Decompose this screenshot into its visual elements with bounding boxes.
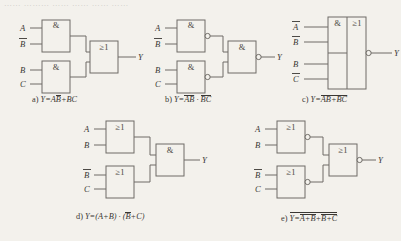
caption-e: e) Y=A+B+B̅+C: [281, 212, 337, 224]
circuit-a: & & ≥1 A B B C Y: [8, 14, 148, 89]
nor-gate-1-inversion-bubble-icon: [305, 134, 310, 139]
input-label-e2: B: [255, 140, 261, 150]
input-label-b2: B: [155, 39, 161, 49]
caption-b-lhs: Y=: [174, 95, 184, 104]
caption-d-lhs: Y=(A+B) · (: [85, 212, 125, 221]
nand-gate-1-symbol: &: [188, 20, 195, 30]
input-label-e4: C: [255, 184, 261, 194]
input-label-b4: C: [155, 79, 161, 89]
caption-e-lhs: Y=: [290, 214, 300, 223]
caption-c-prefix: c): [302, 95, 308, 104]
and-gate-2-symbol: &: [53, 62, 60, 72]
nand-gate-1-inversion-bubble-icon: [205, 33, 210, 38]
nor-gate-2-symbol: ≥1: [287, 167, 296, 177]
or-gate-2-symbol: ≥1: [116, 167, 125, 177]
output-label-d: Y: [202, 155, 208, 165]
caption-c-lhs: Y=: [311, 95, 321, 104]
input-label-c3: B: [293, 59, 299, 69]
input-label-c2: B: [293, 37, 299, 47]
circuit-d: ≥1 ≥1 & A B B C Y: [72, 117, 212, 197]
or-section-output-symbol: ≥1: [353, 18, 362, 28]
caption-a: a) Y=AB+BC: [32, 95, 77, 105]
caption-e-term-2: B̅+C: [321, 214, 337, 224]
logic-circuit-figure-sheet: …… ……… …… …… …… …… & & ≥1 A B: [0, 0, 401, 241]
caption-e-outer-bar-group: Y=A+B+B̅+C: [290, 212, 338, 224]
caption-e-prefix: e): [281, 214, 287, 223]
input-label-c4: C: [293, 74, 299, 84]
or-gate-1-symbol: ≥1: [116, 122, 125, 132]
and-gate-1-symbol: &: [53, 20, 60, 30]
nor-gate-output-symbol: ≥1: [339, 145, 348, 155]
caption-b: b) Y=AB̅ · BC: [165, 95, 211, 105]
caption-a-term-2: +BC: [61, 95, 77, 104]
nand-gate-2-symbol: &: [188, 62, 195, 72]
nor-gate-1-symbol: ≥1: [287, 122, 296, 132]
input-label-b1: A: [154, 23, 161, 33]
or-gate-output-symbol: ≥1: [100, 42, 109, 52]
input-label-a4: C: [20, 79, 26, 89]
caption-d: d) Y=(A+B) · (B+C): [76, 212, 144, 222]
caption-c-term-0: A̅B̅+BC̅: [321, 95, 347, 105]
caption-c: c) Y=A̅B̅+BC̅: [302, 95, 347, 105]
nand-gate-output-symbol: &: [239, 42, 246, 52]
input-label-a3: B: [20, 65, 26, 75]
nand-gate-output-inversion-bubble-icon: [256, 54, 261, 59]
nor-gate-output-inversion-bubble-icon: [357, 157, 362, 162]
circuit-e: ≥1 ≥1 ≥1 A B B C Y: [243, 117, 388, 197]
input-label-c1: A: [292, 22, 299, 32]
circuit-b: & & & A B B C Y: [143, 14, 283, 89]
input-label-d3: B: [84, 170, 90, 180]
input-label-a1: A: [19, 23, 26, 33]
input-label-a2: B: [20, 39, 26, 49]
caption-a-prefix: a): [32, 95, 38, 104]
caption-e-term-0: A+B: [300, 214, 316, 224]
caption-a-lhs: Y=: [41, 95, 51, 104]
caption-b-term-0: AB̅: [184, 95, 194, 105]
input-label-e3: B: [255, 170, 261, 180]
caption-b-prefix: b): [165, 95, 172, 104]
caption-d-prefix: d): [76, 212, 83, 221]
output-label-c: Y: [394, 48, 400, 58]
aoi-output-inversion-bubble-icon: [366, 50, 371, 55]
input-label-d2: B: [84, 140, 90, 150]
input-label-d1: A: [83, 124, 90, 134]
input-label-e1: A: [254, 124, 261, 134]
output-label-e: Y: [378, 155, 384, 165]
input-label-b3: B: [155, 65, 161, 75]
caption-b-term-2: BC: [201, 95, 212, 105]
nor-gate-2-inversion-bubble-icon: [305, 179, 310, 184]
input-label-d4: C: [84, 184, 90, 194]
and-gate-output-symbol: &: [167, 145, 174, 155]
caption-d-term-1: +C): [131, 212, 145, 221]
circuit-c: & ≥1 A B B C Y: [280, 14, 400, 89]
page-top-bleed-text: …… ……… …… …… …… ……: [4, 0, 214, 7]
nand-gate-2-inversion-bubble-icon: [205, 74, 210, 79]
and-section-1-symbol: &: [334, 18, 341, 28]
